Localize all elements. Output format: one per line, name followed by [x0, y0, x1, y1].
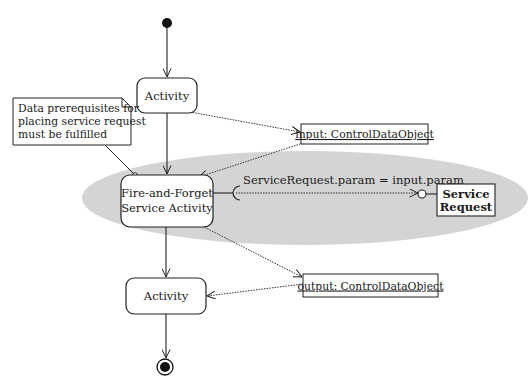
fire-and-forget-activity-node[interactable]: Fire-and-Forget Service Activity: [121, 175, 213, 227]
note-line-3: must be fulfilled: [18, 128, 107, 141]
activity-node-top[interactable]: Activity: [137, 78, 197, 113]
service-request-node[interactable]: Service Request: [437, 184, 495, 216]
final-node-icon: [157, 359, 173, 375]
note[interactable]: Data prerequisites for placing service r…: [13, 98, 146, 145]
lollipop-interface-icon: [418, 190, 426, 198]
fire-and-forget-label-line-1: Fire-and-Forget: [121, 186, 213, 200]
activity-bottom-label: Activity: [143, 289, 189, 303]
input-object-label: input: ControlDataObject: [295, 128, 434, 141]
input-object-node[interactable]: input: ControlDataObject: [295, 124, 434, 144]
note-line-2: placing service request: [18, 115, 146, 128]
output-object-label: output: ControlDataObject: [298, 280, 445, 293]
activity-diagram: ServiceRequest.param = input.param Activ…: [0, 0, 529, 392]
objectflow-output-to-activity: [207, 284, 303, 296]
fire-and-forget-label-line-2: Service Activity: [121, 201, 213, 215]
activity-node-bottom[interactable]: Activity: [126, 278, 206, 314]
service-request-label-line-1: Service: [442, 187, 489, 201]
service-request-label-line-2: Request: [440, 200, 493, 214]
objectflow-activity-to-input: [190, 112, 300, 132]
note-line-1: Data prerequisites for: [18, 102, 140, 115]
initial-node-icon: [162, 18, 172, 28]
activity-top-label: Activity: [144, 89, 190, 103]
output-object-node[interactable]: output: ControlDataObject: [298, 274, 445, 297]
note-connector: [105, 145, 134, 174]
service-call-label: ServiceRequest.param = input.param: [243, 173, 464, 187]
